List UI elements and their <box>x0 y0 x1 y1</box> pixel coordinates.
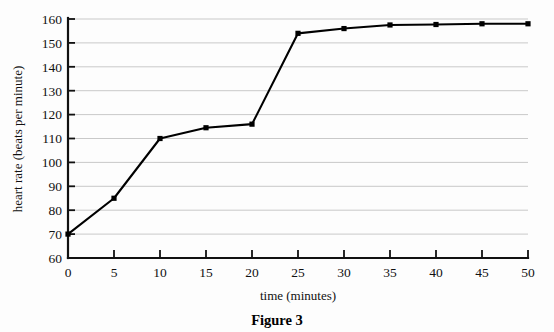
data-point-marker <box>387 22 392 27</box>
data-point-marker <box>203 125 208 130</box>
figure-caption: Figure 3 <box>251 312 303 328</box>
x-axis-tick-label: 0 <box>65 265 72 280</box>
x-axis-tick-label: 5 <box>111 265 118 280</box>
y-axis-tick-label: 140 <box>42 60 63 75</box>
x-axis-tick-label: 30 <box>337 265 351 280</box>
y-axis-tick-label: 80 <box>49 203 63 218</box>
x-axis-tick-label: 40 <box>429 265 443 280</box>
data-point-marker <box>479 21 484 26</box>
data-point-marker <box>295 31 300 36</box>
x-axis-tick-label: 20 <box>245 265 259 280</box>
heart-rate-line-chart: 60708090100110120130140150160 0510152025… <box>0 0 554 332</box>
y-axis-tick-label: 120 <box>42 107 63 122</box>
x-axis-tick-label: 45 <box>475 265 489 280</box>
x-axis-title: time (minutes) <box>260 288 336 303</box>
data-point-marker <box>157 136 162 141</box>
x-axis-tick-label: 25 <box>291 265 305 280</box>
y-axis-tick-label: 60 <box>49 251 63 266</box>
data-point-marker <box>341 26 346 31</box>
data-point-marker <box>111 196 116 201</box>
data-point-marker <box>65 232 70 237</box>
figure-container: 60708090100110120130140150160 0510152025… <box>0 0 554 332</box>
y-axis-tick-label: 90 <box>49 179 63 194</box>
x-axis-tick-label: 35 <box>383 265 397 280</box>
chart-background <box>0 0 554 332</box>
x-axis-tick-label: 10 <box>153 265 167 280</box>
y-axis-tick-label: 160 <box>42 12 63 27</box>
y-axis-tick-label: 130 <box>42 84 63 99</box>
y-axis-tick-label: 110 <box>42 131 62 146</box>
x-axis-tick-label: 15 <box>199 265 213 280</box>
data-point-marker <box>525 21 530 26</box>
data-point-marker <box>433 22 438 27</box>
y-axis-title: heart rate (beats per minute) <box>10 66 25 213</box>
data-point-marker <box>249 122 254 127</box>
y-axis-tick-label: 150 <box>42 36 63 51</box>
y-axis-tick-label: 70 <box>49 227 63 242</box>
x-axis-tick-label: 50 <box>521 265 535 280</box>
y-axis-tick-label: 100 <box>42 155 63 170</box>
